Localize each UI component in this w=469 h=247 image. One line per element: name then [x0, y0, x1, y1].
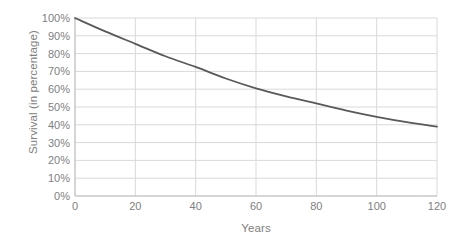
- survival-curve-chart: Survival (in percentage) 0% 10% 20% 30% …: [0, 0, 469, 247]
- plot-area: [0, 0, 469, 247]
